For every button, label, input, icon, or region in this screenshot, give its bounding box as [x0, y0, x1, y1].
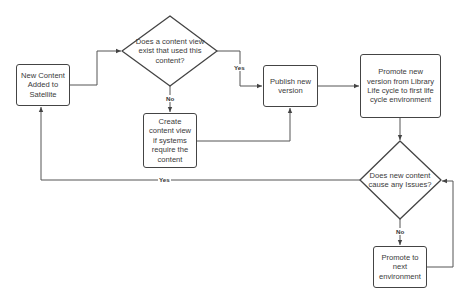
edge-label-issues-no: No: [395, 228, 405, 235]
node-publish: Publish new version: [263, 65, 318, 107]
node-new-content: New Content Added to Satellite: [16, 64, 70, 106]
edge-label-cv-yes: Yes: [233, 64, 246, 71]
edge-label-cv-no: No: [165, 95, 175, 102]
node-cv-exists: Does a content view exist that used this…: [128, 33, 212, 69]
node-promote-next: Promote to next environment: [373, 246, 427, 288]
node-issues-label: Does new content cause any Issues?: [368, 171, 432, 190]
edge-issues-yes-to-new-content: [41, 107, 360, 180]
node-publish-label: Publish new version: [266, 77, 315, 96]
edge-create-to-publish: [197, 108, 290, 141]
edge-new-content-to-decision: [70, 51, 121, 85]
node-create-cv: Create content view if systems require t…: [143, 113, 197, 168]
node-promote-first: Promote new version from Library Life cy…: [360, 54, 441, 118]
node-promote-next-label: Promote to next environment: [376, 253, 424, 281]
node-cv-exists-label: Does a content view exist that used this…: [128, 37, 212, 65]
node-promote-first-label: Promote new version from Library Life cy…: [363, 67, 438, 105]
edge-label-issues-yes: Yes: [158, 176, 171, 183]
node-new-content-label: New Content Added to Satellite: [19, 71, 67, 99]
node-issues: Does new content cause any Issues?: [368, 162, 432, 198]
node-create-cv-label: Create content view if systems require t…: [146, 117, 194, 164]
